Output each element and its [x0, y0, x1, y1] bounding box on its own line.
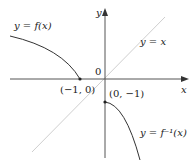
y-axis-label: y — [95, 7, 102, 18]
x-axis-label: x — [181, 84, 187, 95]
point-0-neg1-label: (0, −1) — [109, 88, 144, 99]
function-inverse-diagram: y = f(x) y = x y = f⁻¹(x) (−1, 0) (0, −1… — [0, 0, 195, 165]
f-inverse-curve — [105, 102, 140, 160]
identity-line-label: y = x — [139, 36, 166, 47]
point-0-neg1 — [103, 100, 106, 103]
x-axis-arrow-icon — [181, 76, 189, 82]
point-neg1-0 — [78, 77, 81, 80]
f-inverse-curve-label: y = f⁻¹(x) — [139, 127, 187, 138]
point-neg1-0-label: (−1, 0) — [60, 84, 95, 95]
y-axis-arrow-icon — [102, 8, 108, 16]
f-curve — [10, 36, 80, 79]
origin-label: 0 — [95, 66, 101, 77]
f-curve-label: y = f(x) — [13, 20, 52, 31]
